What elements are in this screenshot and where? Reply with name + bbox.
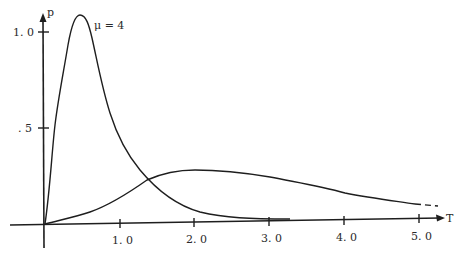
x-axis (10, 218, 440, 225)
mu-annotation: μ = 4 (94, 19, 124, 32)
y-axis-arrow-icon (40, 13, 47, 22)
x-axis-label: T (446, 212, 454, 225)
y-axis-label: p (47, 6, 54, 19)
y-tick-label: 1. 0 (13, 26, 34, 39)
series-broad-curve (45, 170, 415, 224)
axes (10, 13, 445, 248)
x-tick-label: 1. 0 (112, 234, 133, 247)
y-axis (43, 20, 44, 248)
x-tick-label: 3. 0 (261, 232, 282, 245)
series-mu-4-curve (45, 15, 290, 224)
x-ticks (120, 214, 419, 228)
x-tick-label: 5. 0 (411, 230, 432, 243)
series-broad-curve-dashed-tail (415, 204, 438, 206)
x-axis-arrow-icon (436, 215, 445, 222)
x-tick-label: 4. 0 (336, 231, 357, 244)
x-tick-label: 2. 0 (186, 233, 207, 246)
chart-canvas: 1. 0 2. 0 3. 0 4. 0 5. 0 . 5 1. 0 p T μ … (0, 0, 457, 258)
y-tick-label: . 5 (18, 122, 32, 135)
